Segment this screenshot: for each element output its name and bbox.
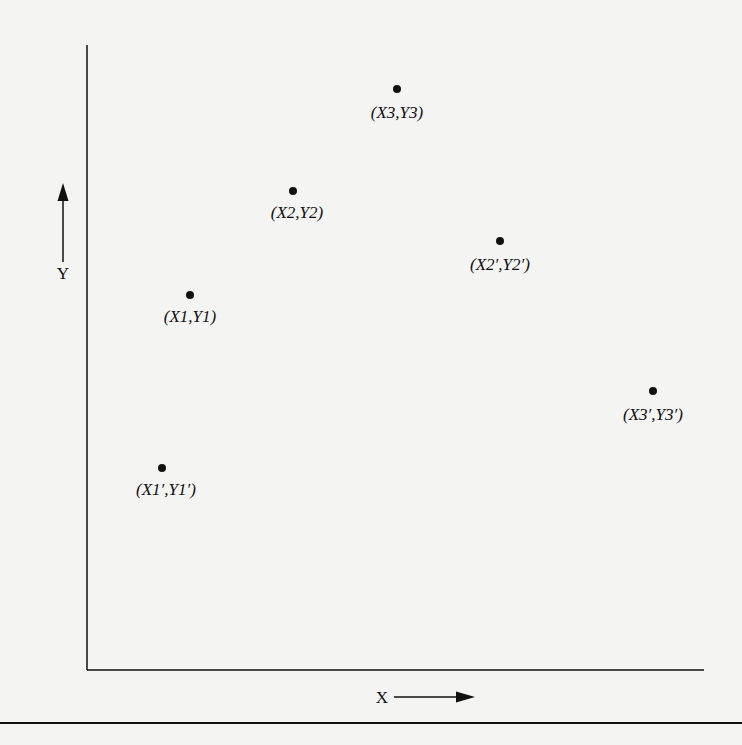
point-label-x2p-y2p: (X2′,Y2′) (470, 256, 530, 273)
point-label-x1p-y1p: (X1′,Y1′) (136, 481, 196, 498)
point-label-x2-y2: (X2,Y2) (271, 204, 323, 221)
point-dots (158, 85, 657, 472)
y-direction-arrow-icon (58, 183, 69, 262)
x-direction-arrow-icon (394, 692, 475, 703)
point-label-x3-y3: (X3,Y3) (371, 104, 423, 121)
y-axis-label: Y (57, 265, 69, 282)
point-dot-p1p (158, 464, 166, 472)
x-axis-label: X (376, 689, 388, 706)
point-dot-p1 (186, 291, 194, 299)
point-dot-p2p (496, 237, 504, 245)
point-dot-p3p (649, 387, 657, 395)
point-label-x3p-y3p: (X3′,Y3′) (623, 406, 683, 423)
point-dot-p2 (289, 187, 297, 195)
point-dot-p3 (393, 85, 401, 93)
point-label-x1-y1: (X1,Y1) (164, 308, 216, 325)
